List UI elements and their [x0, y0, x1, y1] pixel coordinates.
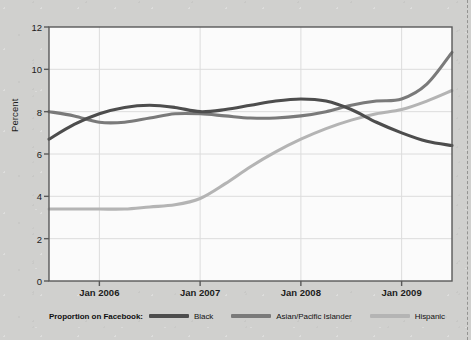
- plot-area: [0, 0, 471, 340]
- legend-swatch-black: [149, 314, 189, 318]
- legend-item-black: Black: [149, 312, 213, 321]
- line-chart-figure: Percent 024681012 Jan 2006Jan 2007Jan 20…: [0, 0, 471, 340]
- chart-legend: Proportion on Facebook: Black Asian/Paci…: [49, 308, 463, 324]
- legend-label-asian-pacific-islander: Asian/Pacific Islander: [276, 312, 351, 321]
- legend-item-hispanic: Hispanic: [370, 312, 445, 321]
- legend-label-black: Black: [194, 312, 213, 321]
- legend-label-hispanic: Hispanic: [415, 312, 445, 321]
- legend-swatch-hispanic: [370, 314, 410, 318]
- legend-swatch-asian-pacific-islander: [231, 314, 271, 318]
- legend-title: Proportion on Facebook:: [49, 312, 143, 321]
- legend-item-asian-pacific-islander: Asian/Pacific Islander: [231, 312, 351, 321]
